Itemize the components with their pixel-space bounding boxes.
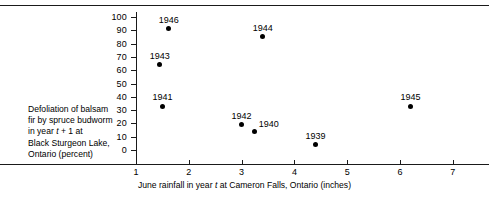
data-point (157, 62, 162, 67)
y-tick-mark (131, 84, 136, 85)
y-tick-label: 100 (87, 13, 127, 22)
x-tick-mark (400, 160, 401, 165)
data-point-label: 1942 (222, 112, 262, 121)
data-point-label: 1943 (140, 52, 180, 61)
y-tick-mark (131, 57, 136, 58)
data-point-label: 1946 (149, 16, 189, 25)
data-point (313, 142, 318, 147)
x-tick-label: 2 (179, 168, 199, 177)
data-point-label: 1939 (296, 132, 336, 141)
y-tick-mark (131, 30, 136, 31)
x-tick-mark (294, 160, 295, 165)
scatter-plot-figure: 1009080706050403020100 1234567 193919401… (0, 0, 489, 198)
y-tick-mark (131, 44, 136, 45)
x-axis-title: June rainfall in year t at Cameron Falls… (0, 180, 489, 190)
x-tick-mark (189, 160, 190, 165)
x-tick-label: 5 (337, 168, 357, 177)
data-point-label: 1944 (243, 24, 283, 33)
y-axis-title-line: Ontario (percent) (28, 149, 132, 160)
y-tick-label: 60 (87, 66, 127, 75)
y-axis-title-line: Defoliation of balsam (28, 104, 132, 115)
data-point (239, 122, 244, 127)
y-tick-label: 80 (87, 40, 127, 49)
y-tick-mark (131, 97, 136, 98)
y-tick-label: 40 (87, 93, 127, 102)
data-point-label: 1945 (391, 93, 431, 102)
y-axis-title: Defoliation of balsamfir by spruce budwo… (28, 104, 132, 160)
x-tick-mark (453, 160, 454, 165)
y-axis-title-line: fir by spruce budworm (28, 115, 132, 126)
y-axis-line (136, 12, 137, 164)
y-tick-label: 50 (87, 80, 127, 89)
data-point-label: 1940 (259, 120, 279, 129)
data-point (260, 34, 265, 39)
data-point-label: 1941 (142, 93, 182, 102)
data-point (408, 104, 413, 109)
y-axis-title-line: in year t + 1 at (28, 126, 132, 137)
x-axis-line (0, 164, 489, 165)
data-point (252, 129, 257, 134)
y-tick-label: 70 (87, 53, 127, 62)
y-tick-mark (131, 17, 136, 18)
x-tick-label: 4 (284, 168, 304, 177)
x-tick-label: 1 (126, 168, 146, 177)
y-axis-title-line: Black Sturgeon Lake, (28, 138, 132, 149)
x-tick-mark (136, 160, 137, 165)
x-tick-label: 6 (390, 168, 410, 177)
data-point (166, 26, 171, 31)
x-tick-label: 3 (232, 168, 252, 177)
y-tick-mark (131, 70, 136, 71)
y-tick-label: 90 (87, 26, 127, 35)
x-tick-mark (242, 160, 243, 165)
data-point (160, 104, 165, 109)
x-tick-mark (347, 160, 348, 165)
x-tick-label: 7 (443, 168, 463, 177)
plot-area: 1009080706050403020100 1234567 193919401… (0, 0, 489, 198)
x-axis-title-variable: t (215, 180, 217, 190)
y-axis-title-variable: t (56, 126, 58, 136)
